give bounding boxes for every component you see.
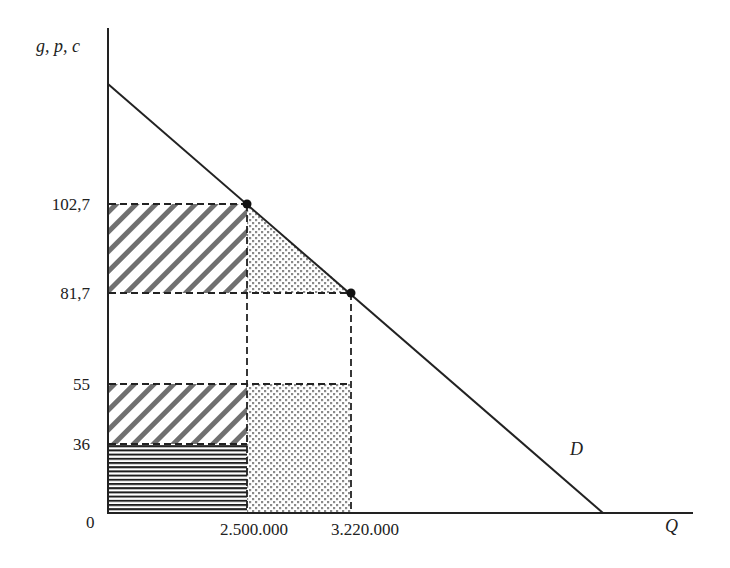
x-axis-label: Q (665, 516, 678, 536)
x-tick-2500000: 2.500.000 (220, 520, 288, 539)
x-tick-3220000: 3.220.000 (331, 520, 399, 539)
y-tick-36: 36 (73, 435, 90, 454)
horizontal-stripes-region (109, 445, 247, 513)
y-axis-label: g, p, c (36, 36, 80, 56)
diagonal-hatch-lower-region (109, 384, 247, 444)
welfare-diagram: g, p, c Q D 0 102,7 81,7 55 36 2.500.000… (0, 0, 730, 568)
y-tick-81-7: 81,7 (60, 284, 90, 303)
point-3220000 (347, 289, 356, 298)
dotted-rectangle-region (247, 384, 351, 513)
point-2500000 (243, 200, 252, 209)
y-tick-102-7: 102,7 (52, 195, 91, 214)
curve-label-d: D (569, 439, 583, 459)
origin-label: 0 (86, 513, 95, 532)
diagonal-hatch-upper-region (109, 204, 247, 293)
y-tick-55: 55 (73, 375, 90, 394)
